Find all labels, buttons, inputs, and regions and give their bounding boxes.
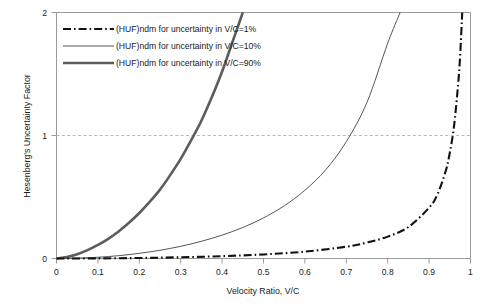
x-tick-label-0.5: 0.5 [258, 267, 270, 277]
y-tick-label-1: 1 [42, 131, 47, 141]
uncertainty-factor-line-chart: 2 1 0 0 0.1 0.2 0.3 0.4 0.5 0.6 0.7 0.8 [0, 0, 493, 307]
x-tick-label-1: 1 [468, 267, 473, 277]
x-tick-label-0.6: 0.6 [299, 267, 311, 277]
x-tick-label-0: 0 [54, 267, 59, 277]
legend-label-10pct: (HUF)ndm for uncertainty in V/C=10% [116, 41, 261, 51]
y-axis-title: Hesenberg's Uncertainty Factor [22, 74, 32, 197]
chart-container: 2 1 0 0 0.1 0.2 0.3 0.4 0.5 0.6 0.7 0.8 [0, 0, 493, 307]
x-axis-title: Velocity Ratio, V/C [227, 286, 300, 296]
x-tick-label-0.9: 0.9 [423, 267, 435, 277]
x-tick-label-0.3: 0.3 [175, 267, 187, 277]
x-tick-label-0.4: 0.4 [216, 267, 228, 277]
x-tick-label-0.2: 0.2 [133, 267, 145, 277]
legend: (HUF)ndm for uncertainty in V/C=1% (HUF)… [63, 24, 261, 68]
y-axis-ticks: 2 1 0 [42, 8, 56, 264]
x-tick-label-0.1: 0.1 [92, 267, 104, 277]
legend-label-1pct: (HUF)ndm for uncertainty in V/C=1% [116, 24, 257, 34]
y-tick-label-0: 0 [42, 254, 47, 264]
legend-label-90pct: (HUF)ndm for uncertainty in V/C=90% [116, 58, 261, 68]
x-axis-ticks: 0 0.1 0.2 0.3 0.4 0.5 0.6 0.7 0.8 0.9 1 [54, 259, 473, 278]
x-tick-label-0.7: 0.7 [340, 267, 352, 277]
y-tick-label-2: 2 [42, 8, 47, 18]
x-tick-label-0.8: 0.8 [382, 267, 394, 277]
